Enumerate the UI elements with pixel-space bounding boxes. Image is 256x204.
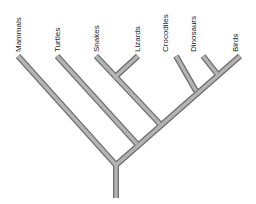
label-dinosaurs: Dinosaurs <box>189 16 198 52</box>
phylogenetic-tree: Mammals Turtles Snakes Lizards Crocodile… <box>0 0 256 204</box>
label-crocodiles: Crocodiles <box>161 14 170 52</box>
label-mammals: Mammals <box>14 17 23 52</box>
branches-fill <box>18 56 240 198</box>
label-birds: Birds <box>231 34 240 52</box>
label-turtles: Turtles <box>53 28 62 52</box>
taxon-labels: Mammals Turtles Snakes Lizards Crocodile… <box>14 14 240 52</box>
branches-outline <box>18 56 240 198</box>
label-lizards: Lizards <box>133 26 142 52</box>
label-snakes: Snakes <box>92 25 101 52</box>
